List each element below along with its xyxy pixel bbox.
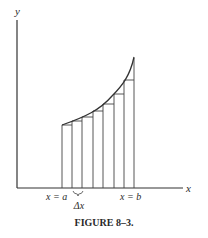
- riemann-sum-figure: y x x = a x = b Δx FIGURE 8–3.: [0, 0, 208, 238]
- y-axis-label: y: [14, 5, 20, 17]
- rectangle-tops: [62, 80, 134, 125]
- label-x-equals-b: x = b: [119, 191, 141, 202]
- label-x-equals-a: x = a: [45, 191, 67, 202]
- label-delta-x: Δx: [73, 200, 85, 211]
- figure-caption: FIGURE 8–3.: [75, 217, 134, 228]
- rectangle-verticals: [62, 58, 134, 188]
- function-curve: [62, 57, 134, 125]
- delta-x-brace: [73, 191, 83, 196]
- x-axis-label: x: [185, 182, 191, 194]
